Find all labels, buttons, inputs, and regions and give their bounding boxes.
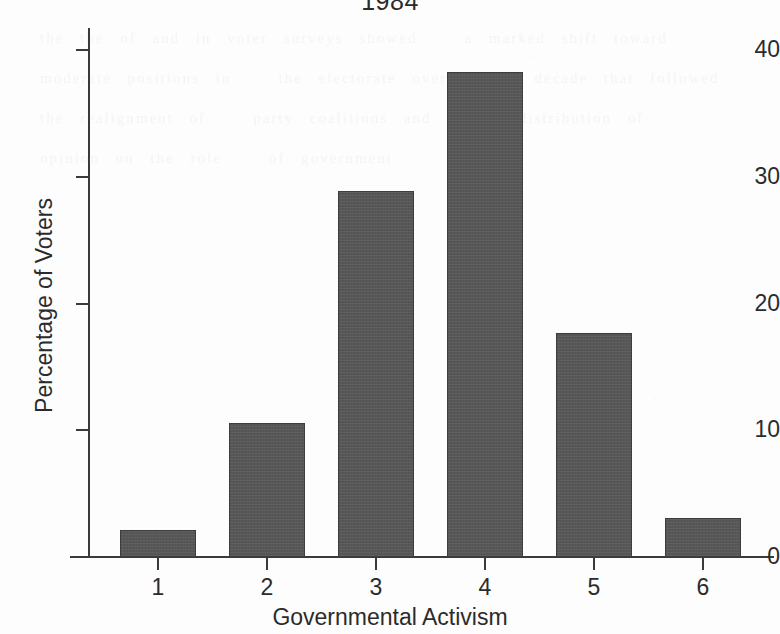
- x-axis-tick-label: 1: [128, 576, 188, 599]
- y-axis-tick: [76, 429, 88, 431]
- bar: [665, 518, 741, 557]
- y-axis-tick: [76, 556, 88, 558]
- bar-chart: 1984 010203040 123456 Governmental Activ…: [0, 0, 780, 634]
- x-axis-tick: [157, 558, 159, 570]
- y-axis-tick: [76, 303, 88, 305]
- bar: [556, 333, 632, 557]
- x-axis-tick-label: 5: [564, 576, 624, 599]
- x-axis-title: Governmental Activism: [0, 604, 780, 631]
- y-axis-tick: [76, 176, 88, 178]
- y-axis-title: Percentage of Voters: [31, 96, 58, 516]
- x-axis-tick-label: 6: [673, 576, 733, 599]
- x-axis-tick-label: 2: [237, 576, 297, 599]
- bar: [120, 530, 196, 557]
- bar: [447, 72, 523, 557]
- x-axis-tick: [702, 558, 704, 570]
- y-axis-tick-label: 30: [736, 165, 780, 188]
- y-axis-line: [88, 28, 90, 558]
- x-axis-tick-label: 3: [346, 576, 406, 599]
- y-axis-tick-label: 40: [736, 38, 780, 61]
- y-axis-tick-label: 20: [736, 292, 780, 315]
- bar: [338, 191, 414, 557]
- chart-page: the the of and in voter surveys showed a…: [0, 0, 780, 634]
- x-axis-tick-label: 4: [455, 576, 515, 599]
- x-axis-tick: [266, 558, 268, 570]
- bar: [229, 423, 305, 557]
- y-axis-tick-label: 10: [736, 418, 780, 441]
- chart-title: 1984: [0, 0, 780, 16]
- y-axis-tick-label: 0: [736, 545, 780, 568]
- y-axis-tick: [76, 49, 88, 51]
- x-axis-tick: [593, 558, 595, 570]
- x-axis-tick: [375, 558, 377, 570]
- x-axis-tick: [484, 558, 486, 570]
